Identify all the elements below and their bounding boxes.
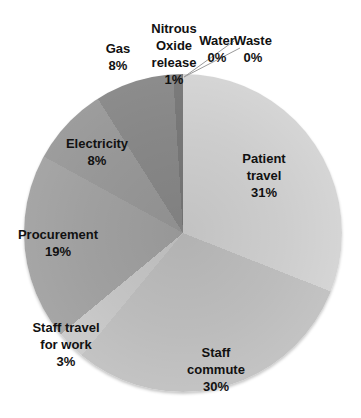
slice-label-gas: Gas 8% xyxy=(106,40,131,74)
slice-label-nitrous-oxide-release: Nitrous Oxide release 1% xyxy=(151,20,197,88)
slice-label-patient-travel: Patient travel 31% xyxy=(242,150,285,201)
slice-label-waste: Waste 0% xyxy=(234,32,272,66)
slice-label-procurement: Procurement 19% xyxy=(18,226,98,260)
pie-chart-figure: Patient travel 31%Staff commute 30%Staff… xyxy=(0,0,361,418)
slice-label-staff-travel-for-work: Staff travel for work 3% xyxy=(32,319,99,370)
slice-label-electricity: Electricity 8% xyxy=(66,135,128,169)
slice-label-staff-commute: Staff commute 30% xyxy=(187,344,245,395)
slice-label-water: Water 0% xyxy=(199,32,235,66)
